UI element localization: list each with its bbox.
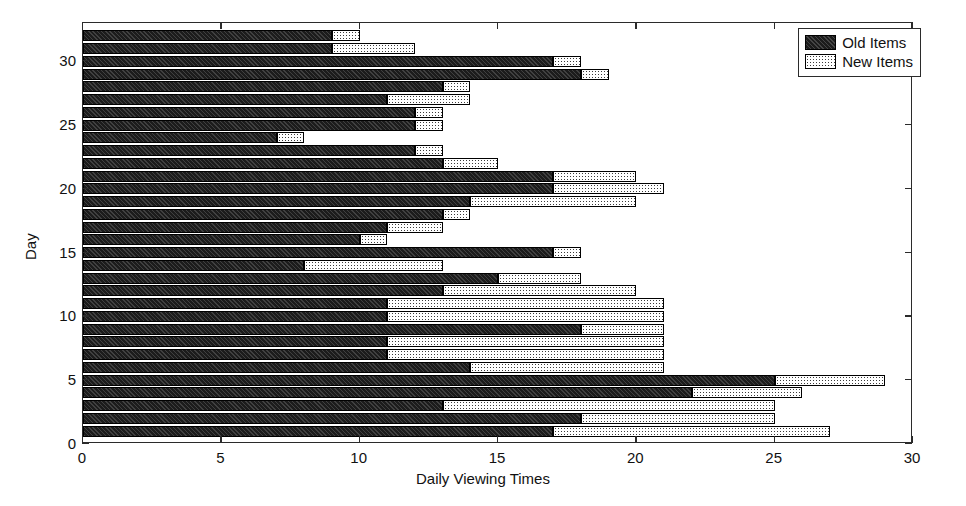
plot-area [82, 22, 912, 443]
bar-row [83, 336, 911, 347]
bar-segment-new-items [332, 30, 360, 41]
x-tick-label: 10 [350, 449, 367, 466]
bars-layer [83, 23, 911, 442]
bar-row [83, 375, 911, 386]
bar-segment-old-items [83, 120, 415, 131]
x-axis-title: Daily Viewing Times [0, 470, 966, 487]
bar-segment-new-items [443, 285, 637, 296]
x-tick-mark [359, 436, 360, 443]
y-tick-mark-right [905, 379, 912, 380]
bar-segment-new-items [304, 260, 442, 271]
bar-segment-new-items [387, 94, 470, 105]
bar-segment-old-items [83, 30, 332, 41]
bar-segment-new-items [387, 336, 664, 347]
x-tick-mark-top [359, 22, 360, 29]
bar-segment-new-items [553, 171, 636, 182]
bar-segment-old-items [83, 158, 443, 169]
bar-row [83, 362, 911, 373]
bar-segment-old-items [83, 375, 775, 386]
bar-row [83, 222, 911, 233]
bar-row [83, 43, 911, 54]
bar-segment-new-items [581, 324, 664, 335]
bar-segment-old-items [83, 183, 553, 194]
y-tick-label: 0 [48, 435, 76, 452]
y-tick-mark-right [905, 252, 912, 253]
y-tick-mark [82, 188, 89, 189]
bar-segment-new-items [387, 349, 664, 360]
bar-segment-old-items [83, 387, 692, 398]
bar-segment-old-items [83, 222, 387, 233]
bar-segment-new-items [360, 234, 388, 245]
bar-row [83, 120, 911, 131]
bar-row [83, 183, 911, 194]
bar-segment-old-items [83, 298, 387, 309]
bar-segment-old-items [83, 413, 581, 424]
bar-segment-new-items [443, 400, 775, 411]
bar-segment-new-items [387, 222, 442, 233]
bar-segment-old-items [83, 43, 332, 54]
bar-row [83, 69, 911, 80]
y-tick-mark-right [905, 124, 912, 125]
bar-segment-old-items [83, 234, 360, 245]
bar-row [83, 94, 911, 105]
legend-label-old-items: Old Items [842, 35, 906, 50]
bar-row [83, 285, 911, 296]
bar-segment-new-items [415, 120, 443, 131]
y-tick-mark [82, 124, 89, 125]
y-tick-mark [82, 60, 89, 61]
bar-row [83, 209, 911, 220]
x-tick-label: 30 [904, 449, 921, 466]
y-tick-mark-right [905, 443, 912, 444]
bar-segment-new-items [443, 209, 471, 220]
bar-segment-old-items [83, 196, 470, 207]
x-tick-mark-top [82, 22, 83, 29]
bar-segment-old-items [83, 324, 581, 335]
bar-segment-old-items [83, 400, 443, 411]
bar-row [83, 349, 911, 360]
bar-row [83, 413, 911, 424]
bar-segment-old-items [83, 145, 415, 156]
y-tick-label: 25 [48, 116, 76, 133]
bar-segment-new-items [332, 43, 415, 54]
bar-segment-old-items [83, 81, 443, 92]
bar-segment-new-items [387, 311, 664, 322]
bar-segment-old-items [83, 311, 387, 322]
bar-segment-new-items [498, 273, 581, 284]
bar-segment-new-items [443, 158, 498, 169]
x-tick-mark-top [220, 22, 221, 29]
y-tick-mark [82, 443, 89, 444]
bar-segment-new-items [553, 183, 664, 194]
x-tick-mark [912, 436, 913, 443]
x-tick-label: 20 [627, 449, 644, 466]
bar-segment-old-items [83, 69, 581, 80]
y-tick-mark [82, 315, 89, 316]
bar-segment-old-items [83, 362, 470, 373]
bar-segment-old-items [83, 94, 387, 105]
bar-segment-new-items [387, 298, 664, 309]
x-tick-mark-top [497, 22, 498, 29]
bar-segment-old-items [83, 209, 443, 220]
x-tick-label: 5 [216, 449, 224, 466]
bar-row [83, 260, 911, 271]
bar-row [83, 400, 911, 411]
bar-segment-old-items [83, 336, 387, 347]
x-tick-label: 25 [765, 449, 782, 466]
legend-item-new-items: New Items [805, 52, 913, 71]
legend-swatch-new-items-icon [805, 54, 836, 69]
bar-row [83, 81, 911, 92]
x-tick-mark [220, 436, 221, 443]
x-tick-mark-top [635, 22, 636, 29]
bar-row [83, 171, 911, 182]
legend-swatch-old-items-icon [805, 35, 836, 50]
bar-segment-old-items [83, 260, 304, 271]
bar-row [83, 298, 911, 309]
y-tick-mark-right [905, 188, 912, 189]
bar-row [83, 145, 911, 156]
bar-row [83, 387, 911, 398]
x-tick-mark [497, 436, 498, 443]
bar-segment-new-items [581, 413, 775, 424]
bar-segment-new-items [277, 132, 305, 143]
bar-segment-old-items [83, 273, 498, 284]
y-tick-label: 30 [48, 52, 76, 69]
bar-segment-old-items [83, 349, 387, 360]
